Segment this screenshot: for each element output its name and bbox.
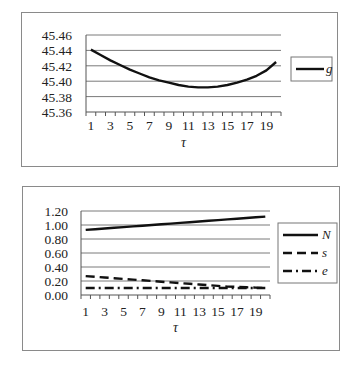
x-tick-label: 5 [127, 118, 134, 133]
x-tick-label: 19 [249, 304, 263, 319]
x-tick-label: 5 [120, 304, 127, 319]
series-line-s [86, 276, 266, 288]
x-tick-label: 9 [166, 118, 173, 133]
y-tick-label: 1.20 [44, 204, 68, 219]
x-axis-title: τ [181, 135, 187, 150]
series-line-N [86, 217, 266, 230]
x-axis-title: τ [173, 320, 179, 335]
x-tick-label: 15 [211, 304, 225, 319]
y-tick-label: 45.38 [42, 90, 73, 105]
legend-label-e: e [322, 263, 328, 278]
x-tick-label: 7 [146, 118, 153, 133]
chart-1: 13579111315171945.4645.4445.4245.4045.38… [42, 28, 333, 150]
x-tick-label: 3 [107, 118, 114, 133]
x-tick-label: 11 [174, 304, 187, 319]
legend-label-N: N [321, 227, 332, 242]
y-tick-label: 0.40 [44, 260, 68, 275]
y-tick-label: 45.42 [42, 59, 72, 74]
x-tick-label: 19 [260, 118, 274, 133]
y-tick-label: 45.40 [42, 74, 73, 89]
y-tick-label: 0.00 [44, 288, 68, 303]
y-tick-label: 0.80 [44, 232, 68, 247]
y-tick-label: 45.36 [42, 105, 73, 120]
y-tick-label: 0.20 [44, 274, 68, 289]
series-line-g [91, 50, 276, 88]
y-tick-label: 0.60 [44, 246, 68, 261]
x-tick-label: 11 [182, 118, 195, 133]
legend: g [291, 57, 333, 81]
chart-2: 1357911131517191.201.000.800.600.400.200… [44, 204, 337, 335]
legend-label-s: s [322, 245, 327, 260]
x-tick-label: 1 [82, 304, 89, 319]
x-tick-label: 15 [221, 118, 235, 133]
x-tick-label: 7 [139, 304, 146, 319]
y-tick-label: 45.46 [42, 28, 73, 43]
legend-label-g: g [326, 61, 333, 76]
y-tick-label: 1.00 [44, 218, 68, 233]
x-tick-label: 9 [158, 304, 165, 319]
x-tick-label: 13 [201, 118, 215, 133]
x-tick-label: 1 [88, 118, 95, 133]
x-tick-label: 17 [230, 304, 244, 319]
x-tick-label: 13 [192, 304, 206, 319]
charts-canvas: 13579111315171945.4645.4445.4245.4045.38… [0, 0, 354, 368]
legend: Nse [278, 223, 337, 283]
x-tick-label: 3 [101, 304, 108, 319]
x-tick-label: 17 [240, 118, 254, 133]
y-tick-label: 45.44 [42, 43, 73, 58]
